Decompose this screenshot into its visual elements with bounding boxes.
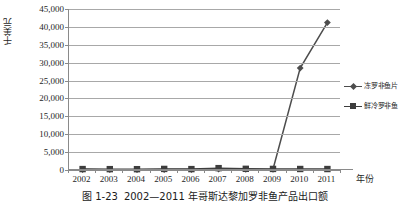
x-tick-mark xyxy=(95,170,96,173)
legend-item[interactable]: 鲜冷罗非鱼 xyxy=(344,96,410,116)
x-tick-mark xyxy=(150,170,151,173)
gridline xyxy=(69,152,340,153)
x-tick-mark xyxy=(122,170,123,173)
x-tick-label: 2007 xyxy=(209,174,227,185)
x-axis-line xyxy=(68,169,353,170)
legend: 冻罗非鱼片鲜冷罗非鱼 xyxy=(344,76,410,116)
caption-text: 2002—2011 年哥斯达黎加罗非鱼产品出口额 xyxy=(124,191,328,202)
y-tick-mark xyxy=(65,9,69,10)
plot-area xyxy=(68,9,340,170)
gridline xyxy=(69,81,340,82)
x-tick-mark xyxy=(204,170,205,173)
y-tick-mark xyxy=(65,45,69,46)
caption-number: 图 1-23 xyxy=(82,191,118,202)
x-tick-label: 2006 xyxy=(181,174,199,185)
y-tick-mark xyxy=(65,134,69,135)
x-tick-label: 2008 xyxy=(236,174,254,185)
x-tick-label: 2002 xyxy=(73,174,91,185)
x-tick-label: 2003 xyxy=(100,174,118,185)
y-tick-label: 45,000 xyxy=(39,5,64,14)
y-axis-title: 千美元 xyxy=(2,18,16,45)
x-tick-mark xyxy=(258,170,259,173)
x-tick-label: 2004 xyxy=(127,174,145,185)
x-tick-mark xyxy=(177,170,178,173)
series-layer xyxy=(69,9,341,170)
data-point-marker xyxy=(297,65,304,72)
y-tick-label: 35,000 xyxy=(39,40,64,49)
y-tick-mark xyxy=(65,27,69,28)
y-tick-mark xyxy=(65,116,69,117)
legend-marker-icon xyxy=(344,102,362,111)
y-tick-label: 40,000 xyxy=(39,22,64,31)
y-tick-mark xyxy=(65,98,69,99)
y-tick-label: 0 xyxy=(60,166,65,175)
x-tick-label: 2009 xyxy=(263,174,281,185)
y-tick-label: 25,000 xyxy=(39,76,64,85)
figure-container: 千美元 05,00010,00015,00020,00025,00030,000… xyxy=(0,0,410,207)
gridline xyxy=(69,134,340,135)
gridline xyxy=(69,98,340,99)
legend-marker-icon xyxy=(344,82,362,91)
y-tick-label: 15,000 xyxy=(39,112,64,121)
y-tick-mark xyxy=(65,152,69,153)
figure-caption: 图 1-232002—2011 年哥斯达黎加罗非鱼产品出口额 xyxy=(0,190,410,203)
x-tick-mark xyxy=(286,170,287,173)
y-tick-label: 30,000 xyxy=(39,58,64,67)
gridline xyxy=(69,63,340,64)
y-tick-label: 10,000 xyxy=(39,130,64,139)
legend-label: 鲜冷罗非鱼 xyxy=(364,102,398,110)
gridline xyxy=(69,9,340,10)
gridline xyxy=(69,116,340,117)
x-axis-tick-labels: 2002200320042005200620072008200920102011 xyxy=(68,174,340,188)
gridline xyxy=(69,27,340,28)
data-point-marker xyxy=(324,19,331,26)
y-tick-label: 5,000 xyxy=(44,148,64,157)
gridline xyxy=(69,45,340,46)
legend-item[interactable]: 冻罗非鱼片 xyxy=(344,76,410,96)
legend-label: 冻罗非鱼片 xyxy=(364,82,398,90)
x-tick-label: 2010 xyxy=(290,174,308,185)
x-axis-title: 年份 xyxy=(356,174,374,185)
x-tick-mark xyxy=(68,170,69,173)
x-tick-mark xyxy=(231,170,232,173)
y-axis-tick-labels: 05,00010,00015,00020,00025,00030,00035,0… xyxy=(16,0,66,175)
x-tick-mark xyxy=(313,170,314,173)
x-tick-label: 2005 xyxy=(154,174,172,185)
x-tick-mark xyxy=(340,170,341,173)
y-tick-mark xyxy=(65,81,69,82)
y-tick-label: 20,000 xyxy=(39,94,64,103)
x-tick-label: 2011 xyxy=(318,174,336,185)
y-tick-mark xyxy=(65,63,69,64)
